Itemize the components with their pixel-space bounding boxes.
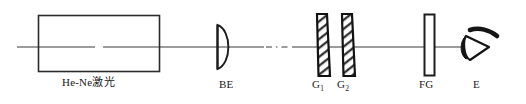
grating-two (342, 14, 355, 76)
eye-brow-icon (470, 29, 497, 36)
he-ne-laser-body (39, 16, 160, 72)
label-grating-two-text: G (337, 78, 345, 90)
label-grating-two: G2 (337, 78, 349, 95)
label-he-ne-laser: He-Ne激光 (62, 76, 115, 88)
label-grating-one-subscript: 1 (320, 84, 324, 93)
label-grating-one: G1 (312, 78, 324, 95)
label-eye: E (473, 78, 480, 90)
label-grating-two-subscript: 2 (345, 84, 349, 93)
label-grating-one-text: G (312, 78, 320, 90)
label-frosted-glass: FG (419, 78, 433, 90)
frosted-glass-plate (425, 15, 435, 76)
grating-one (317, 14, 330, 76)
label-beam-expander: BE (219, 78, 233, 90)
observer-eye-symbol (461, 29, 497, 60)
optical-setup-diagram (0, 0, 526, 104)
eye-outline-icon (464, 36, 489, 60)
